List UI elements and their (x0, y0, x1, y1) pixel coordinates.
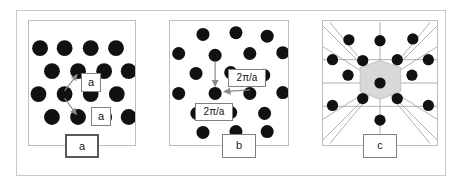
panel-c (322, 20, 438, 146)
panel-a: a a (28, 20, 136, 146)
panel-a-caption: a (65, 134, 99, 158)
panel-b-caption: b (222, 134, 256, 158)
lattice-vector-arrow-1 (65, 74, 78, 91)
panel-c-caption: c (363, 134, 397, 158)
figure-root: a a a (0, 0, 462, 190)
panel-a-caption-label: a (79, 140, 85, 152)
panel-a-annotation-1-label: a (88, 76, 94, 88)
panel-b-caption-label: b (236, 139, 242, 151)
panel-b-annotation-1-label: 2π/a (237, 72, 258, 83)
panel-c-brillouin-zone (323, 21, 437, 145)
panel-b: 2π/a 2π/a (169, 20, 289, 146)
panel-c-caption-label: c (377, 139, 383, 151)
panel-b-annotation-1: 2π/a (228, 69, 266, 87)
panel-a-annotation-2-label: a (98, 110, 104, 122)
panel-b-annotation-2: 2π/a (195, 103, 233, 121)
panel-a-annotation-2: a (91, 107, 111, 126)
panel-b-annotation-2-label: 2π/a (204, 106, 225, 117)
panel-c-points (327, 33, 434, 125)
panel-a-annotation-1: a (81, 73, 101, 92)
lattice-vector-arrow-2 (65, 98, 77, 115)
